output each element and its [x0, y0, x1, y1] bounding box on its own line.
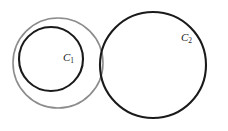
circles-diagram: C1 C2	[0, 0, 228, 131]
circle-c1-label-subscript: 1	[70, 56, 74, 65]
figure-canvas: C1 C2	[0, 0, 228, 131]
figure-background	[0, 0, 228, 131]
circle-c2-label-subscript: 2	[188, 36, 192, 45]
